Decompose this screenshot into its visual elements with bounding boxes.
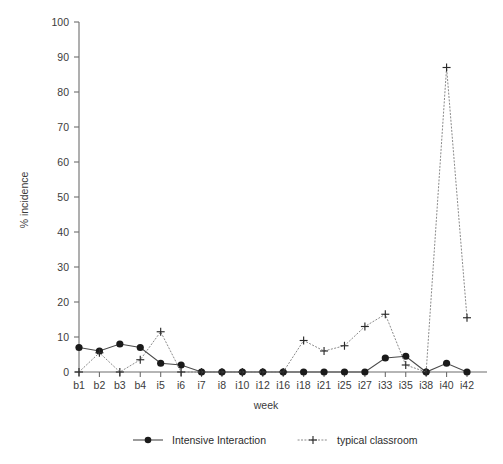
legend-marker-filled-circle-icon	[145, 437, 152, 444]
x-tick-label: i8	[218, 379, 226, 391]
series-layer	[75, 64, 471, 377]
data-point-marker	[279, 368, 287, 376]
data-point-marker	[402, 361, 410, 369]
data-point-marker	[382, 354, 389, 361]
x-axis: b1b2b3b4i5i6i7i8i10i12i16i18i21i25i27i33…	[73, 372, 487, 411]
y-tick-label: 80	[57, 86, 69, 98]
legend-label-typical-classroom: typical classroom	[337, 434, 418, 446]
x-axis-title: week	[253, 399, 279, 411]
x-tick-label: i27	[358, 379, 372, 391]
x-tick-label: i7	[197, 379, 205, 391]
chart-container: 0102030405060708090100 % incidence b1b2b…	[0, 0, 503, 464]
x-tick-label: i25	[337, 379, 351, 391]
series-typical-classroom	[75, 64, 471, 377]
data-point-marker	[463, 368, 470, 375]
y-tick-label: 100	[51, 16, 69, 28]
y-tick-label: 0	[63, 366, 69, 378]
data-point-marker	[259, 368, 267, 376]
y-tick-label: 40	[57, 226, 69, 238]
x-tick-label: i42	[460, 379, 474, 391]
x-tick-label: i33	[378, 379, 392, 391]
data-point-marker	[361, 368, 368, 375]
line-chart-svg: 0102030405060708090100 % incidence b1b2b…	[0, 0, 503, 464]
data-point-marker	[320, 347, 328, 355]
x-tick-label: i35	[399, 379, 413, 391]
data-point-marker	[300, 368, 307, 375]
series-line	[79, 68, 467, 373]
y-axis: 0102030405060708090100 % incidence	[18, 16, 79, 378]
data-point-marker	[137, 344, 144, 351]
x-tick-label: i5	[157, 379, 165, 391]
data-point-marker	[157, 360, 164, 367]
x-tick-label: b4	[134, 379, 146, 391]
data-point-marker	[443, 64, 451, 72]
data-point-marker	[463, 314, 471, 322]
y-axis-title: % incidence	[18, 172, 30, 229]
x-tick-label: i12	[256, 379, 270, 391]
data-point-marker	[320, 368, 327, 375]
legend-item-typical-classroom: typical classroom	[298, 434, 418, 446]
y-tick-label: 60	[57, 156, 69, 168]
x-tick-label: i6	[177, 379, 185, 391]
y-tick-label: 10	[57, 331, 69, 343]
data-point-marker	[75, 344, 82, 351]
data-point-marker	[300, 337, 308, 345]
x-tick-label: i21	[317, 379, 331, 391]
data-point-marker	[136, 356, 144, 364]
y-tick-label: 20	[57, 296, 69, 308]
x-tick-label: b2	[94, 379, 106, 391]
y-tick-label: 50	[57, 191, 69, 203]
data-point-marker	[238, 368, 246, 376]
y-tick-label: 70	[57, 121, 69, 133]
legend-marker-plus-icon	[309, 436, 317, 444]
x-tick-label: b3	[114, 379, 126, 391]
series-intensive-interaction	[75, 340, 470, 375]
data-point-marker	[198, 368, 206, 376]
data-point-marker	[218, 368, 226, 376]
x-tick-label: i38	[419, 379, 433, 391]
data-point-marker	[443, 360, 450, 367]
x-tick-label: b1	[73, 379, 85, 391]
chart-legend: Intensive Interaction typical classroom	[133, 434, 418, 446]
data-point-marker	[116, 340, 123, 347]
y-tick-label: 90	[57, 51, 69, 63]
legend-label-intensive-interaction: Intensive Interaction	[172, 434, 266, 446]
data-point-marker	[381, 310, 389, 318]
data-point-marker	[157, 328, 165, 336]
x-tick-label: i10	[235, 379, 249, 391]
x-tick-label: i18	[297, 379, 311, 391]
data-point-marker	[177, 368, 185, 376]
x-tick-label: i40	[440, 379, 454, 391]
legend-item-intensive-interaction: Intensive Interaction	[133, 434, 266, 446]
x-tick-label: i16	[276, 379, 290, 391]
data-point-marker	[341, 368, 348, 375]
y-tick-label: 30	[57, 261, 69, 273]
